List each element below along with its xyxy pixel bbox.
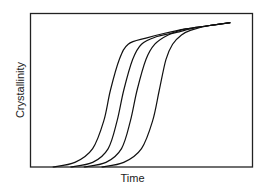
series-curve-4	[102, 23, 231, 167]
crystallinity-chart	[0, 0, 265, 193]
x-axis-label: Time	[0, 172, 265, 184]
series-group	[53, 23, 231, 167]
y-axis-label: Crystallinity	[14, 62, 26, 118]
plot-frame	[31, 14, 253, 168]
series-curve-3	[84, 23, 231, 167]
